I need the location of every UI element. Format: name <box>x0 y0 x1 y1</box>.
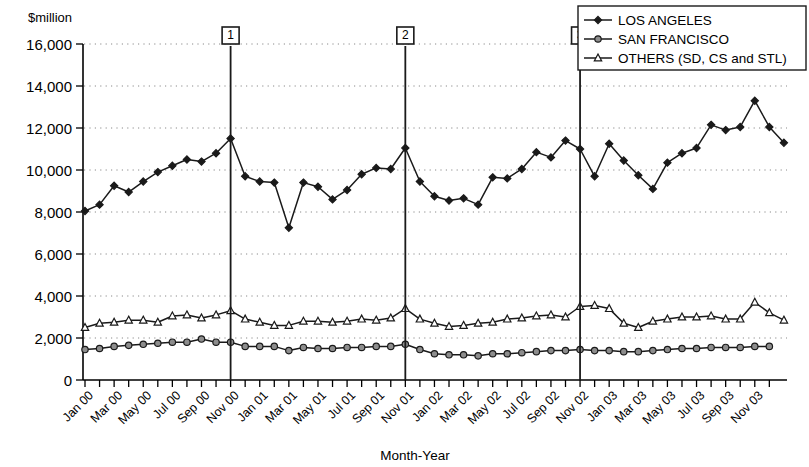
data-point <box>271 343 277 349</box>
data-point <box>751 97 758 104</box>
data-point <box>198 158 205 165</box>
y-tick-label: 14,000 <box>26 78 72 95</box>
data-point <box>460 195 467 202</box>
data-point <box>751 298 758 305</box>
data-point <box>650 347 656 353</box>
y-tick-label: 0 <box>64 372 72 389</box>
x-tick-label: May 02 <box>465 388 504 427</box>
x-tick-label: Nov 02 <box>553 388 591 426</box>
data-point <box>595 36 601 42</box>
data-point <box>446 352 452 358</box>
data-point <box>635 348 641 354</box>
data-point <box>591 347 597 353</box>
x-tick-label: May 03 <box>640 388 679 427</box>
data-point <box>184 339 190 345</box>
data-point <box>737 344 743 350</box>
data-point <box>519 350 525 356</box>
data-point <box>344 344 350 350</box>
data-point <box>489 351 495 357</box>
data-point <box>82 346 88 352</box>
data-point <box>445 197 452 204</box>
data-point <box>329 345 335 351</box>
data-point <box>591 173 598 180</box>
data-point <box>373 343 379 349</box>
data-point <box>96 345 102 351</box>
data-point <box>286 347 292 353</box>
series-san-francisco <box>82 336 773 359</box>
data-point <box>271 179 278 186</box>
data-point <box>679 345 685 351</box>
y-axis-unit-label: $million <box>28 10 72 25</box>
data-point <box>198 336 204 342</box>
series-los-angeles <box>81 97 787 231</box>
chart-container: 02,0004,0006,0008,00010,00012,00014,0001… <box>0 0 809 467</box>
legend: LOS ANGELESSAN FRANCISCOOTHERS (SD, CS a… <box>578 6 806 70</box>
data-point <box>388 343 394 349</box>
y-tick-label: 8,000 <box>34 204 72 221</box>
data-point <box>315 345 321 351</box>
x-tick-label: May 00 <box>115 388 154 427</box>
data-point <box>548 347 554 353</box>
data-point <box>241 315 248 322</box>
data-point <box>169 339 175 345</box>
data-point <box>664 346 670 352</box>
data-point <box>125 342 131 348</box>
data-point <box>475 201 482 208</box>
data-point <box>169 162 176 169</box>
data-point <box>708 121 715 128</box>
y-axis: 02,0004,0006,0008,00010,00012,00014,0001… <box>26 10 83 389</box>
y-tick-label: 10,000 <box>26 162 72 179</box>
y-tick-label: 12,000 <box>26 120 72 137</box>
data-point <box>242 343 248 349</box>
data-point <box>300 344 306 350</box>
data-point <box>752 343 758 349</box>
x-tick-label: May 01 <box>290 388 329 427</box>
data-point <box>358 344 364 350</box>
data-point <box>431 351 437 357</box>
data-point <box>387 314 394 321</box>
y-tick-label: 2,000 <box>34 330 72 347</box>
y-tick-label: 4,000 <box>34 288 72 305</box>
data-point <box>489 174 496 181</box>
data-point <box>693 345 699 351</box>
data-point <box>242 173 249 180</box>
data-point <box>183 156 190 163</box>
legend-label: OTHERS (SD, CS and STL) <box>618 51 787 66</box>
data-point <box>111 343 117 349</box>
event-marker-label: 1 <box>227 28 234 42</box>
data-point <box>417 346 423 352</box>
data-point <box>722 344 728 350</box>
data-point <box>416 315 423 322</box>
data-point <box>722 127 729 134</box>
x-axis-title: Month-Year <box>380 448 450 463</box>
y-tick-label: 6,000 <box>34 246 72 263</box>
data-point <box>504 351 510 357</box>
data-point <box>621 348 627 354</box>
data-point <box>460 352 466 358</box>
data-point <box>256 178 263 185</box>
event-marker-label: 2 <box>402 28 409 42</box>
data-point <box>533 348 539 354</box>
x-tick-label: Nov 01 <box>379 388 417 426</box>
data-point <box>285 224 292 231</box>
data-point <box>155 340 161 346</box>
data-point <box>693 144 700 151</box>
data-point <box>257 343 263 349</box>
series-others-sd-cs-and-stl <box>81 298 787 330</box>
data-point <box>373 164 380 171</box>
x-tick-label: Nov 03 <box>728 388 766 426</box>
data-point <box>766 309 773 316</box>
data-point <box>475 353 481 359</box>
data-point <box>766 343 772 349</box>
line-chart: 02,0004,0006,0008,00010,00012,00014,0001… <box>0 0 809 467</box>
legend-label: SAN FRANCISCO <box>618 32 729 47</box>
x-axis: Jan 00Mar 00May 00Jul 00Sep 00Nov 00Jan … <box>60 380 787 463</box>
legend-label: LOS ANGELES <box>618 13 712 28</box>
y-tick-label: 16,000 <box>26 36 72 53</box>
data-point <box>708 344 714 350</box>
x-tick-label: Nov 00 <box>204 388 242 426</box>
data-point <box>213 339 219 345</box>
series-line <box>85 101 784 228</box>
data-point <box>737 123 744 130</box>
data-point <box>140 341 146 347</box>
